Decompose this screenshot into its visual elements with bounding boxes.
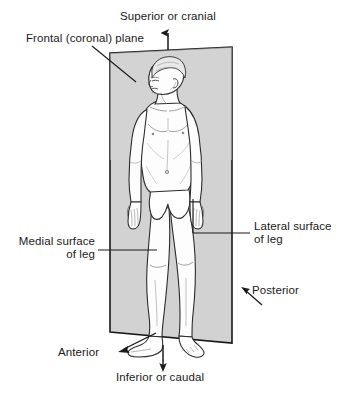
label-medial-surface-of-leg-line1: Medial surface [11,235,95,248]
anatomy-figure-diagram: Superior or cranial Frontal (coronal) pl… [0,0,342,393]
label-lateral-surface-of-leg-line2: of leg [254,233,283,246]
label-posterior: Posterior [252,284,299,297]
anatomy-illustration [0,0,342,393]
label-anterior: Anterior [58,346,99,359]
left-foot [128,336,163,357]
label-lateral-surface-of-leg-line1: Lateral surface [254,220,332,233]
label-medial-surface-of-leg-line2: of leg [11,248,95,261]
label-frontal-coronal-plane: Frontal (coronal) plane [26,32,144,45]
label-superior-or-cranial: Superior or cranial [120,10,216,23]
label-inferior-or-caudal: Inferior or caudal [116,371,204,384]
nipple-right [182,132,185,135]
nipple-left [152,133,155,136]
